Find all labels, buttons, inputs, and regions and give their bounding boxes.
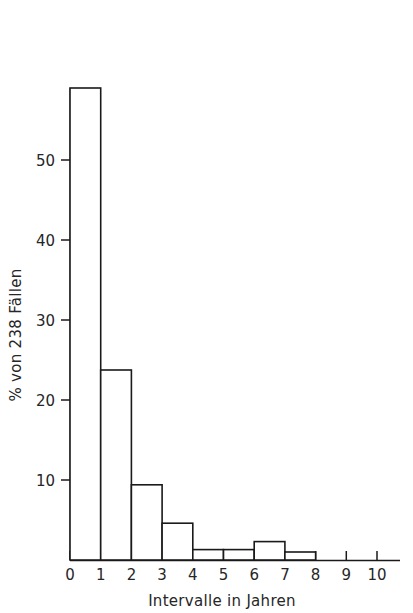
x-tick-label-10: 10	[367, 566, 386, 584]
y-tick-label-40: 40	[36, 232, 55, 250]
x-tick-label-8: 8	[311, 566, 321, 584]
histogram-figure: 1020304050 012345678910 % von 238 Fällen…	[0, 0, 413, 613]
x-tick-label-7: 7	[280, 566, 290, 584]
x-tick-label-0: 0	[65, 566, 75, 584]
bar-7-8	[285, 552, 316, 560]
x-tick-label-6: 6	[249, 566, 259, 584]
bar-5-6	[224, 550, 255, 560]
x-tick-label-5: 5	[219, 566, 229, 584]
x-tick-label-3: 3	[157, 566, 167, 584]
bar-4-5	[193, 550, 224, 560]
x-tick-label-9: 9	[342, 566, 352, 584]
y-axis-title: % von 238 Fällen	[7, 268, 25, 401]
y-tick-label-30: 30	[36, 312, 55, 330]
bar-3-4	[162, 523, 193, 560]
chart-background	[0, 0, 413, 613]
x-tick-label-4: 4	[188, 566, 198, 584]
y-tick-label-20: 20	[36, 392, 55, 410]
y-tick-label-10: 10	[36, 472, 55, 490]
x-axis-title: Intervalle in Jahren	[148, 592, 296, 610]
x-tick-label-1: 1	[96, 566, 106, 584]
bar-1-2	[101, 370, 132, 560]
bar-0-1	[70, 88, 101, 560]
x-tick-label-2: 2	[127, 566, 137, 584]
y-tick-label-50: 50	[36, 152, 55, 170]
bar-2-3	[131, 485, 162, 560]
bar-6-7	[254, 542, 285, 560]
